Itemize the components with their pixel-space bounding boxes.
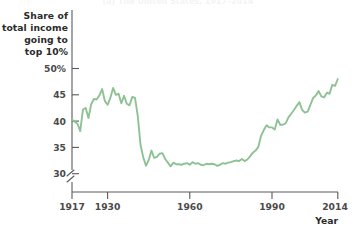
y-tick-label-40: 40 <box>53 116 66 127</box>
figure-title: (a) The United States, 1917–2014 <box>103 0 254 6</box>
x-tick-label-2014: 2014 <box>322 201 348 212</box>
x-axis-ticks: 1917 1930 1960 1990 2014 <box>59 192 348 212</box>
x-axis-title: Year <box>314 215 338 226</box>
y-axis-label-line-3: going to <box>24 34 68 45</box>
y-tick-label-30: 30 <box>53 168 66 179</box>
y-tick-label-35: 35 <box>53 142 66 153</box>
y-axis-break-icon <box>67 170 74 182</box>
y-axis-label-line-4: top 10% <box>25 46 68 57</box>
y-tick-label-50: 50% <box>44 63 66 74</box>
data-series-line <box>72 79 338 166</box>
x-tick-label-1990: 1990 <box>259 201 285 212</box>
y-axis-label-line-1: Share of <box>24 10 69 21</box>
income-share-line-chart: (a) The United States, 1917–2014 Share o… <box>0 0 356 228</box>
y-axis-label-line-2: total income <box>2 22 68 33</box>
y-axis-label: Share of total income going to top 10% <box>2 10 69 57</box>
chart-figure: (a) The United States, 1917–2014 Share o… <box>0 0 356 228</box>
x-tick-label-1930: 1930 <box>95 201 121 212</box>
x-tick-label-1960: 1960 <box>177 201 203 212</box>
y-tick-label-45: 45 <box>53 89 66 100</box>
x-tick-label-1917: 1917 <box>59 201 85 212</box>
